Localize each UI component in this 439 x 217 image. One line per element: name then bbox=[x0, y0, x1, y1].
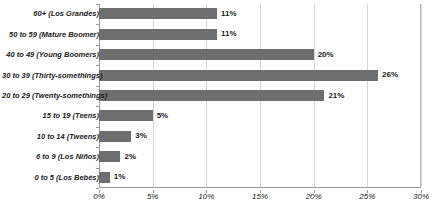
category-tick bbox=[96, 147, 99, 148]
value-tick-label: 0% bbox=[93, 193, 105, 201]
bar bbox=[99, 49, 314, 60]
bar-row: 11% bbox=[99, 8, 420, 19]
bar bbox=[99, 151, 120, 162]
bar bbox=[99, 90, 324, 101]
value-tick-label: 20% bbox=[306, 193, 322, 201]
bar-row: 3% bbox=[99, 131, 420, 142]
value-tick-label: 15% bbox=[252, 193, 268, 201]
category-tick bbox=[96, 168, 99, 169]
bar bbox=[99, 70, 378, 81]
value-tick-label: 30% bbox=[413, 193, 429, 201]
bar-value-label: 20% bbox=[318, 51, 334, 59]
bar-row: 5% bbox=[99, 110, 420, 121]
category-label: 10 to 14 (Tweens) bbox=[2, 133, 99, 141]
value-tick-label: 25% bbox=[359, 193, 375, 201]
category-tick bbox=[96, 45, 99, 46]
category-axis: 60+ (Los Grandes)50 to 59 (Mature Boomer… bbox=[0, 4, 99, 188]
category-label: 0 to 5 (Los Bebés) bbox=[2, 174, 99, 182]
bar-row: 2% bbox=[99, 151, 420, 162]
category-tick bbox=[96, 24, 99, 25]
category-label: 15 to 19 (Teens) bbox=[2, 113, 99, 121]
bar-value-label: 2% bbox=[124, 153, 136, 161]
category-label: 50 to 59 (Mature Boomer) bbox=[2, 31, 99, 39]
bar-row: 1% bbox=[99, 172, 420, 183]
bar-value-label: 26% bbox=[382, 71, 398, 79]
bar bbox=[99, 172, 110, 183]
bar-value-label: 3% bbox=[135, 132, 147, 140]
category-tick bbox=[96, 106, 99, 107]
bar-row: 21% bbox=[99, 90, 420, 101]
value-axis: 0%5%10%15%20%25%30% bbox=[99, 190, 421, 212]
category-label: 40 to 49 (Young Boomers) bbox=[2, 51, 99, 59]
category-label: 6 to 9 (Los Niños) bbox=[2, 154, 99, 162]
bar-value-label: 21% bbox=[328, 92, 344, 100]
value-tick-label: 5% bbox=[147, 193, 159, 201]
bar-row: 11% bbox=[99, 29, 420, 40]
category-tick bbox=[96, 127, 99, 128]
plot-area: 11%11%20%26%21%5%3%2%1% bbox=[99, 4, 421, 188]
bar-row: 26% bbox=[99, 70, 420, 81]
bar-value-label: 5% bbox=[157, 112, 169, 120]
bar-value-label: 11% bbox=[221, 10, 237, 18]
category-tick bbox=[96, 86, 99, 87]
value-tick-label: 10% bbox=[198, 193, 214, 201]
category-tick bbox=[96, 4, 99, 5]
category-label: 20 to 29 (Twenty-somethings) bbox=[2, 92, 99, 100]
bar-value-label: 1% bbox=[114, 173, 126, 181]
bar bbox=[99, 29, 217, 40]
bar bbox=[99, 131, 131, 142]
bar bbox=[99, 110, 153, 121]
category-tick bbox=[96, 65, 99, 66]
category-tick bbox=[96, 188, 99, 189]
category-label: 30 to 39 (Thirty-somethings) bbox=[2, 72, 99, 80]
bar-value-label: 11% bbox=[221, 30, 237, 38]
category-label: 60+ (Los Grandes) bbox=[2, 10, 99, 18]
bar-chart: 11%11%20%26%21%5%3%2%1% 60+ (Los Grandes… bbox=[0, 0, 439, 217]
gridline bbox=[421, 4, 422, 187]
bar-row: 20% bbox=[99, 49, 420, 60]
bar bbox=[99, 8, 217, 19]
